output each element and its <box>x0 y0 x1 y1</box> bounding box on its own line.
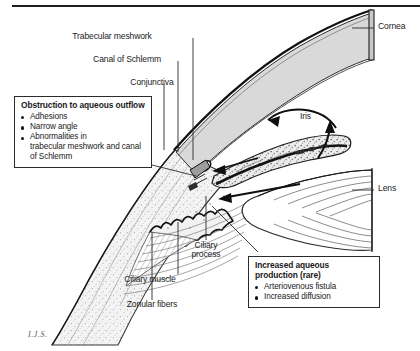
callout-increased-aqueous-production: Increased aqueous production (rare) Arte… <box>248 256 380 308</box>
label-canal-of-schlemm: Canal of Schlemm <box>93 55 161 64</box>
bullet-icon <box>255 296 258 299</box>
callout-obstruction-item-text: Adhesions <box>30 112 67 121</box>
callout-obstruction-title: Obstruction to aqueous outflow <box>21 101 145 111</box>
callout-increased-production-item: Arteriovenous fistula <box>255 282 373 292</box>
figure-canvas: Trabecular meshwork Canal of Schlemm Con… <box>0 0 420 351</box>
callout-increased-production-list: Arteriovenous fistula Increased diffusio… <box>255 282 373 302</box>
callout-increased-production-item-text: Increased diffusion <box>264 292 331 301</box>
callout-obstruction-item: Narrow angle <box>21 122 145 132</box>
callout-obstruction-item-text: Narrow angle <box>30 122 78 131</box>
callout-obstruction-item: Abnormalities in trabecular meshwork and… <box>21 132 145 162</box>
label-zonular-fibers: Zonular fibers <box>127 300 177 309</box>
bullet-icon <box>21 126 24 129</box>
label-ciliary-muscle: Ciliary muscle <box>124 275 175 284</box>
callout-increased-production-title: Increased aqueous production (rare) <box>255 261 373 281</box>
label-iris: Iris <box>300 112 311 121</box>
callout-increased-production-item: Increased diffusion <box>255 292 373 302</box>
bullet-icon <box>255 286 258 289</box>
label-ciliary-process: Ciliary process <box>180 241 232 260</box>
artist-signature: I.J.S. <box>28 330 48 339</box>
callout-obstruction-item-continuation: trabecular meshwork and canal of Schlemm <box>30 142 145 162</box>
label-lens: Lens <box>378 184 396 193</box>
callout-increased-production-item-text: Arteriovenous fistula <box>264 282 336 291</box>
bullet-icon <box>21 116 24 119</box>
label-conjunctiva: Conjunctiva <box>130 78 173 87</box>
callout-obstruction-item: Adhesions <box>21 112 145 122</box>
callout-obstruction-item-text: Abnormalities in <box>30 132 87 141</box>
label-trabecular-meshwork: Trabecular meshwork <box>72 32 151 41</box>
bullet-icon <box>21 137 24 140</box>
callout-obstruction-to-aqueous-outflow: Obstruction to aqueous outflow Adhesions… <box>14 96 152 168</box>
callout-obstruction-list: Adhesions Narrow angle Abnormalities in … <box>21 112 145 162</box>
label-cornea: Cornea <box>378 22 405 31</box>
